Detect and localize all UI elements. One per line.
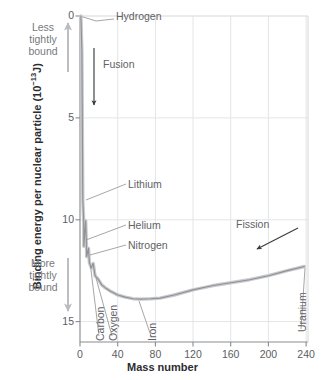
label-lithium: Lithium bbox=[128, 179, 162, 191]
less-tightly-bound-line-3: bound bbox=[20, 46, 66, 58]
label-oxygen: Oxygen bbox=[108, 305, 120, 341]
label-fusion: Fusion bbox=[103, 59, 135, 71]
more-tightly-bound-line-1: More bbox=[20, 258, 66, 270]
y-axis-title-tail: J) bbox=[31, 63, 43, 73]
y-tick-marks bbox=[76, 16, 81, 322]
x-tick-label-160: 160 bbox=[216, 349, 246, 361]
more-tightly-bound-line-3: bound bbox=[20, 282, 66, 294]
y-tick-label-5: 5 bbox=[52, 112, 74, 124]
less-tightly-bound-line-2: tightly bbox=[20, 34, 66, 46]
y-tick-label-10: 10 bbox=[52, 214, 74, 226]
y-tick-label-0: 0 bbox=[52, 10, 74, 22]
label-uranium: Uranium bbox=[297, 292, 309, 332]
less-tightly-bound-caption: Less tightly bound bbox=[20, 22, 66, 57]
label-fission: Fission bbox=[236, 219, 269, 231]
x-tick-label-200: 200 bbox=[253, 349, 283, 361]
x-tick-marks bbox=[80, 342, 306, 347]
label-carbon: Carbon bbox=[95, 307, 107, 341]
x-tick-label-0: 0 bbox=[65, 349, 95, 361]
label-helium: Helium bbox=[128, 220, 161, 232]
less-tightly-bound-line-1: Less bbox=[20, 22, 66, 34]
label-iron: Iron bbox=[147, 323, 159, 341]
binding-energy-chart: 0 5 10 15 0 40 80 120 160 200 240 Mass n… bbox=[0, 0, 325, 380]
y-axis-title-exponent: −13 bbox=[29, 73, 38, 86]
x-tick-label-80: 80 bbox=[140, 349, 170, 361]
leader-hydrogen bbox=[83, 17, 115, 21]
more-tightly-bound-line-2: tightly bbox=[20, 270, 66, 282]
leader-nitrogen bbox=[90, 245, 126, 255]
x-tick-label-240: 240 bbox=[291, 349, 321, 361]
more-tightly-bound-caption: More tightly bound bbox=[20, 258, 66, 293]
fission-arrow bbox=[257, 228, 298, 249]
x-tick-label-120: 120 bbox=[178, 349, 208, 361]
x-axis-title: Mass number bbox=[0, 361, 325, 373]
x-tick-label-40: 40 bbox=[103, 349, 133, 361]
y-tick-label-15: 15 bbox=[52, 316, 74, 328]
leader-helium bbox=[86, 225, 126, 240]
label-nitrogen: Nitrogen bbox=[128, 240, 168, 252]
leader-lithium bbox=[86, 184, 126, 200]
label-hydrogen: Hydrogen bbox=[116, 11, 162, 23]
